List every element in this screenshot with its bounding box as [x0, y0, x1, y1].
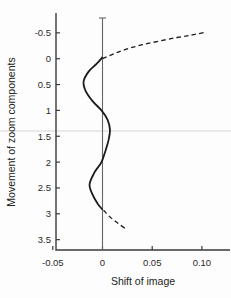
figure-plot: -0.500.511.522.533.5-0.0500.050.10 Movem…	[0, 0, 231, 298]
y-tick-label: 2.5	[38, 182, 51, 193]
upper-dashed-branch	[103, 32, 205, 58]
x-tick-label: 0	[100, 257, 105, 268]
y-axis-label: Movement of zoom components	[5, 57, 17, 206]
chart-svg: -0.500.511.522.533.5-0.0500.050.10	[0, 0, 231, 298]
x-tick-label: 0.05	[143, 257, 162, 268]
y-tick-label: 1.5	[38, 131, 51, 142]
y-tick-label: -0.5	[35, 27, 51, 38]
y-tick-label: 0	[46, 53, 51, 64]
y-tick-label: 0.5	[38, 79, 51, 90]
x-tick-label: 0.10	[193, 257, 212, 268]
y-tick-label: 2	[46, 157, 51, 168]
x-tick-label: -0.05	[42, 257, 64, 268]
x-axis-label: Shift of image	[111, 275, 175, 287]
zoom-shift-solid-curve	[83, 57, 110, 210]
lower-dashed-branch	[104, 210, 127, 229]
y-tick-label: 3	[46, 208, 51, 219]
y-tick-label: 3.5	[38, 234, 51, 245]
y-tick-label: 1	[46, 105, 51, 116]
